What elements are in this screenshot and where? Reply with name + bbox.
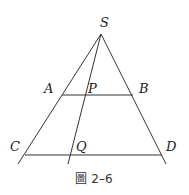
line-right-SD (101, 34, 166, 164)
label-A: A (43, 81, 53, 96)
label-Q: Q (76, 139, 87, 154)
label-S: S (100, 15, 109, 30)
label-D: D (165, 139, 177, 154)
geometry-diagram: S A P B C Q D 圖 2–6 (0, 0, 189, 195)
label-P: P (87, 81, 97, 96)
figure-caption: 圖 2–6 (75, 172, 112, 186)
label-B: B (138, 81, 149, 96)
line-left-SC (18, 34, 101, 164)
label-C: C (10, 139, 20, 154)
